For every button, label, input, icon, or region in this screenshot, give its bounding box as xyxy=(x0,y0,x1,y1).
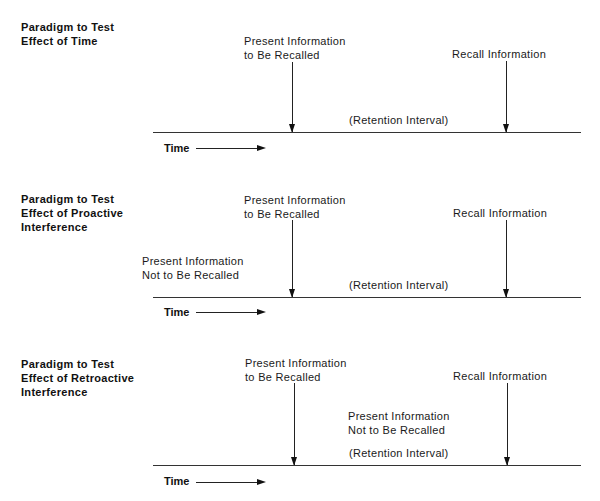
panel-retroactive-interference: Paradigm to Test Effect of Retroactive I… xyxy=(0,0,600,501)
time-arrow-icon xyxy=(196,482,258,483)
timeline xyxy=(153,465,581,466)
recall-info-arrow-icon xyxy=(507,383,508,465)
time-label: Time xyxy=(164,474,189,488)
present-info-label: Present Information to Be Recalled xyxy=(245,356,347,384)
present-info-arrow-icon xyxy=(294,383,295,465)
retention-interval-label: (Retention Interval) xyxy=(349,446,449,460)
recall-info-label: Recall Information xyxy=(453,369,547,383)
interference-info-label: Present Information Not to Be Recalled xyxy=(348,409,450,437)
panel-title: Paradigm to Test Effect of Retroactive I… xyxy=(21,357,134,399)
